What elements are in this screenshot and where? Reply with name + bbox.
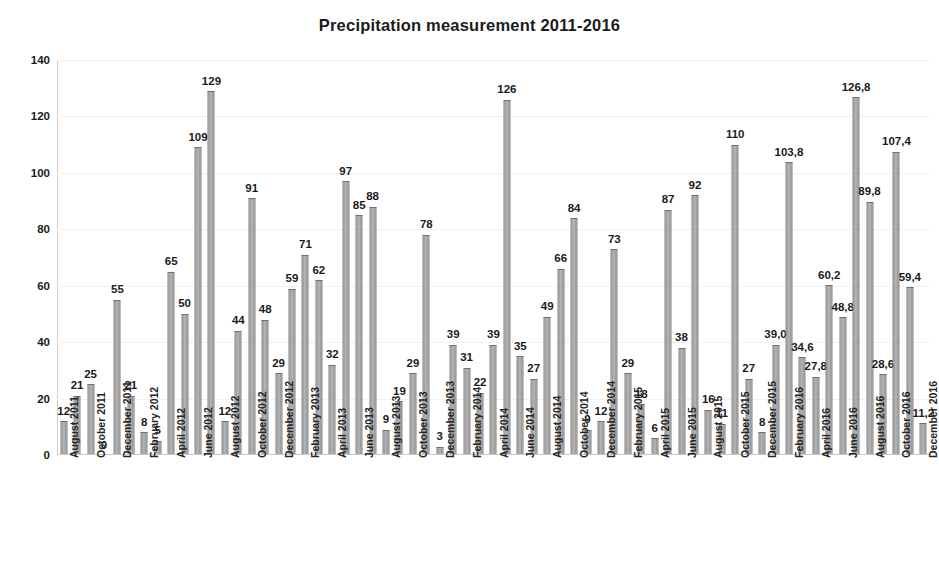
- bar-slot: 109: [191, 60, 204, 455]
- y-axis-tick-label: 40: [10, 336, 50, 348]
- bar-slot: 48,8: [836, 60, 849, 455]
- bar-value-label: 48: [259, 304, 272, 316]
- bar-value-label: 59: [286, 273, 299, 285]
- bar-value-label: 66: [554, 253, 567, 265]
- bar[interactable]: [732, 145, 739, 455]
- bar[interactable]: [87, 384, 94, 455]
- bar-value-label: 91: [245, 183, 258, 195]
- y-axis-tick-label: 20: [10, 393, 50, 405]
- bar-slot: 38: [675, 60, 688, 455]
- bar-value-label: 55: [111, 284, 124, 296]
- bar[interactable]: [356, 215, 363, 455]
- bar[interactable]: [490, 345, 497, 455]
- bar[interactable]: [114, 300, 121, 455]
- y-axis-tick-label: 0: [10, 449, 50, 461]
- bar[interactable]: [812, 377, 819, 455]
- bar-value-label: 71: [299, 239, 312, 251]
- bar[interactable]: [759, 432, 766, 455]
- y-axis-tick-label: 80: [10, 223, 50, 235]
- bar-value-label: 85: [353, 200, 366, 212]
- bar-value-label: 25: [84, 369, 97, 381]
- bar-value-label: 8: [759, 417, 765, 429]
- bar[interactable]: [221, 421, 228, 455]
- bar[interactable]: [329, 365, 336, 455]
- bar-value-label: 21: [71, 380, 84, 392]
- bar[interactable]: [678, 348, 685, 455]
- bar[interactable]: [853, 97, 860, 455]
- bar-value-label: 29: [272, 358, 285, 370]
- bar[interactable]: [60, 421, 67, 455]
- bar[interactable]: [597, 421, 604, 455]
- bar-value-label: 97: [339, 166, 352, 178]
- bar-slot: 50: [178, 60, 191, 455]
- bar-value-label: 3: [437, 431, 443, 443]
- bar[interactable]: [208, 91, 215, 455]
- bar[interactable]: [517, 356, 524, 455]
- bar-slot: 129: [205, 60, 218, 455]
- y-axis-tick-label: 120: [10, 110, 50, 122]
- bar[interactable]: [248, 198, 255, 455]
- y-axis-tick-label: 100: [10, 167, 50, 179]
- bar-slot: 65: [164, 60, 177, 455]
- bar[interactable]: [571, 218, 578, 455]
- y-axis-tick-label: 140: [10, 54, 50, 66]
- bar-slot: 6: [648, 60, 661, 455]
- bar-slot: 27,8: [809, 60, 822, 455]
- precipitation-bar-chart: Precipitation measurement 2011-2016 0204…: [0, 0, 939, 566]
- bar[interactable]: [302, 255, 309, 455]
- bar-slot: 87: [661, 60, 674, 455]
- bar[interactable]: [463, 368, 470, 455]
- y-axis: 020406080100120140: [0, 60, 50, 455]
- bar-value-label: 29: [621, 358, 634, 370]
- bar-value-label: 38: [675, 332, 688, 344]
- bar-slot: 27: [527, 60, 540, 455]
- bar-value-label: 27: [527, 363, 540, 375]
- bar[interactable]: [168, 272, 175, 455]
- bar-slot: 35: [514, 60, 527, 455]
- bar[interactable]: [839, 317, 846, 455]
- bar-value-label: 88: [366, 191, 379, 203]
- bar-value-label: 27: [742, 363, 755, 375]
- bar-slot: 60,2: [823, 60, 836, 455]
- bar-value-label: 65: [165, 256, 178, 268]
- bar-value-label: 6: [651, 423, 657, 435]
- bar[interactable]: [195, 147, 202, 455]
- x-axis: August 2011October 2011December 2011Febr…: [57, 458, 930, 566]
- bar-value-label: 35: [514, 341, 527, 353]
- bar[interactable]: [920, 423, 927, 455]
- bar[interactable]: [544, 317, 551, 455]
- y-axis-tick-label: 60: [10, 280, 50, 292]
- bar[interactable]: [651, 438, 658, 455]
- bar-value-label: 9: [383, 414, 389, 426]
- bar-slot: 92: [688, 60, 701, 455]
- bar-slot: 88: [366, 60, 379, 455]
- bar-slot: 39: [487, 60, 500, 455]
- bar-value-label: 44: [232, 315, 245, 327]
- bar[interactable]: [141, 432, 148, 455]
- bar-value-label: 87: [662, 194, 675, 206]
- bar[interactable]: [785, 162, 792, 455]
- bar-value-label: 78: [420, 219, 433, 231]
- bar[interactable]: [624, 373, 631, 455]
- bar-value-label: 29: [406, 358, 419, 370]
- bar-value-label: 62: [312, 265, 325, 277]
- bar-value-label: 73: [608, 234, 621, 246]
- bar-slot: 32: [326, 60, 339, 455]
- bar-value-label: 84: [568, 203, 581, 215]
- bar[interactable]: [705, 410, 712, 455]
- bar-slot: 126,8: [849, 60, 862, 455]
- bar[interactable]: [275, 373, 282, 455]
- chart-title: Precipitation measurement 2011-2016: [0, 16, 939, 35]
- bar-value-label: 92: [689, 180, 702, 192]
- bar[interactable]: [503, 100, 510, 456]
- bar-value-label: 39: [487, 329, 500, 341]
- bar-slot: 85: [352, 60, 365, 455]
- bar[interactable]: [383, 430, 390, 455]
- bar[interactable]: [409, 373, 416, 455]
- bar-value-label: 50: [178, 298, 191, 310]
- bar-value-label: 8: [141, 417, 147, 429]
- bar[interactable]: [866, 202, 873, 455]
- bar-slot: 97: [339, 60, 352, 455]
- bar-value-label: 49: [541, 301, 554, 313]
- bar[interactable]: [893, 152, 900, 455]
